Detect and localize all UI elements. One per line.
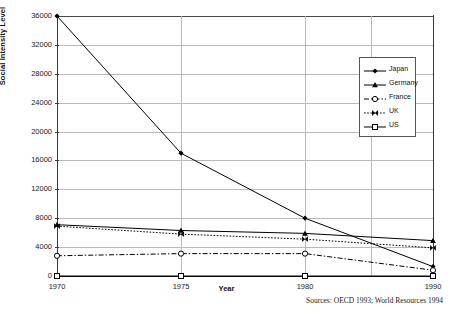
y-tick-label: 24000 — [31, 98, 52, 107]
legend-item-label: France — [387, 91, 411, 103]
legend-item-label: UK — [387, 105, 399, 117]
data-point-marker — [302, 236, 308, 242]
legend-item-uk[interactable]: UK — [363, 104, 412, 118]
data-point-marker — [54, 253, 59, 258]
y-tick-label: 12000 — [31, 184, 52, 193]
legend-item-label: Japan — [387, 63, 408, 75]
data-point-marker — [372, 96, 377, 101]
data-point-marker — [302, 216, 307, 221]
legend-swatch-icon — [363, 91, 387, 103]
legend-item-france[interactable]: France — [363, 90, 412, 104]
legend-item-germany[interactable]: Germany — [363, 76, 412, 90]
series-line — [57, 225, 433, 241]
y-tick-label: 0 — [48, 271, 52, 280]
y-tick-label: 32000 — [31, 40, 52, 49]
plot-area: 0400080001200016000200002400028000320003… — [57, 16, 433, 276]
x-axis-title: Year — [0, 284, 453, 293]
y-tick-label: 8000 — [35, 213, 52, 222]
series-layer — [57, 16, 433, 276]
legend: JapanGermanyFranceUKUS — [359, 57, 416, 137]
plot-right-border — [433, 15, 434, 277]
y-axis-title: Social Intensity Level — [0, 0, 7, 96]
series-line — [57, 16, 433, 267]
legend-swatch-icon — [363, 105, 387, 117]
data-point-marker — [372, 68, 377, 73]
data-point-marker — [179, 274, 184, 279]
sources-note: Sources: OECD 1993; World Resources 1994 — [0, 296, 443, 305]
data-point-marker — [372, 110, 378, 116]
data-point-marker — [178, 251, 183, 256]
legend-swatch-icon — [363, 63, 387, 75]
data-point-marker — [431, 274, 436, 279]
data-point-marker — [55, 274, 60, 279]
data-point-marker — [373, 125, 378, 130]
y-tick-label: 20000 — [31, 127, 52, 136]
series-line — [57, 254, 433, 271]
line-chart: Social Intensity Level 04000800012000160… — [0, 0, 453, 312]
data-point-marker — [430, 268, 435, 273]
legend-item-japan[interactable]: Japan — [363, 62, 412, 76]
y-tick-label: 28000 — [31, 69, 52, 78]
series-us — [55, 274, 436, 279]
y-tick-label: 16000 — [31, 155, 52, 164]
series-germany — [54, 222, 436, 243]
y-tick-label: 36000 — [31, 11, 52, 20]
series-france — [54, 251, 435, 273]
y-tick-label: 4000 — [35, 242, 52, 251]
data-point-marker — [303, 274, 308, 279]
legend-item-us[interactable]: US — [363, 118, 412, 132]
legend-swatch-icon — [363, 77, 387, 89]
legend-item-label: US — [387, 119, 399, 131]
legend-swatch-icon — [363, 119, 387, 131]
legend-item-label: Germany — [387, 77, 418, 89]
series-japan — [54, 13, 435, 269]
data-point-marker — [302, 251, 307, 256]
